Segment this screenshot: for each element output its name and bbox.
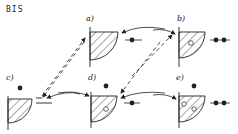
curved-arrow [153,95,176,100]
dashed-arrow [42,38,85,96]
curved-arrow [47,93,80,98]
particle-dot-icon [125,38,142,43]
particle-dot-icon [124,101,140,106]
curved-arrow [153,30,175,35]
panel-d-shape [91,84,117,128]
double-dot-icon [210,101,230,106]
panel-c-shape [8,86,52,130]
curved-arrow [121,92,165,98]
dashed-arrow [132,35,172,76]
panel-b-shape [179,27,205,67]
dashed-arrow [43,42,84,97]
double-dot-icon [210,38,230,43]
dashed-arrow [121,42,160,93]
panel-a-shape [90,27,118,67]
curved-arrow [122,27,165,33]
panel-e-shape [179,84,205,128]
diagram-canvas [0,0,238,134]
